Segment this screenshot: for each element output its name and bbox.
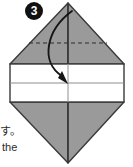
step-number-badge: 3 <box>25 2 43 20</box>
upper-right-flap <box>68 3 124 64</box>
figure-canvas: 3 す。 the <box>0 0 133 167</box>
origami-diagram <box>0 0 133 167</box>
caption-english: the <box>2 141 17 153</box>
caption-japanese: す。 <box>0 126 21 138</box>
lower-right-flap <box>68 102 124 163</box>
